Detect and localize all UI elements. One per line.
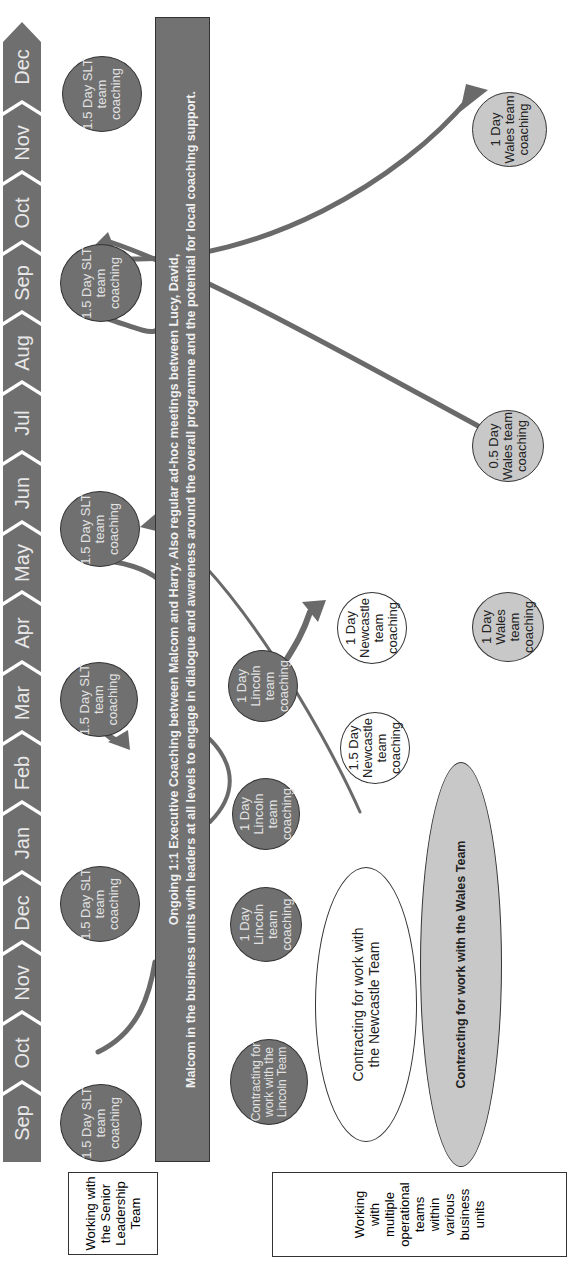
wales-session-1: 1 Day Wales team coaching: [472, 592, 544, 662]
newcastle-session-1: 1.5 Day Newcastle team coaching: [340, 712, 410, 784]
banner-line-1: Ongoing 1:1 Executive Coaching between M…: [166, 18, 183, 1161]
slt-session-3: 1.5 Day SLT team coaching: [60, 662, 138, 737]
slt-session-5: 1.5 Day SLT team coaching: [60, 244, 142, 322]
wales-session-2: 0.5 Day Wales team coaching: [472, 410, 544, 482]
wales-session-3: 1 Day Wales team coaching: [472, 92, 547, 167]
lincoln-contracting: Contracting for work with the Lincoln Te…: [230, 1039, 308, 1125]
lincoln-session-1: 1 Day Lincoln team coaching: [230, 887, 302, 962]
newcastle-session-2: 1 Day Newcastle team coaching: [337, 592, 407, 664]
slt-session-2: 1.5 Day SLT team coaching: [60, 866, 140, 942]
wales-contracting: Contracting for work with the Wales Team: [420, 762, 502, 1167]
lincoln-session-3: 1 Day Lincoln team coaching: [228, 650, 298, 722]
arrow-slt-1: [98, 962, 155, 1052]
slt-session-4: 1.5 Day SLT team coaching: [60, 491, 140, 567]
newcastle-contracting: Contracting for work with the Newcastle …: [315, 867, 417, 1142]
lincoln-session-2: 1 Day Lincoln team coaching: [232, 778, 300, 850]
banner-line-2: Malcom in the business units with leader…: [183, 18, 200, 1161]
diagram-canvas: Sep Oct Nov Dec Jan Feb Mar Apr May Jun …: [0, 0, 567, 1262]
slt-session-6: 1.5 Day SLT team coaching: [62, 56, 142, 132]
slt-session-1: 1.5 Day SLT team coaching: [60, 1084, 142, 1162]
executive-coaching-banner: Ongoing 1:1 Executive Coaching between M…: [155, 17, 210, 1162]
